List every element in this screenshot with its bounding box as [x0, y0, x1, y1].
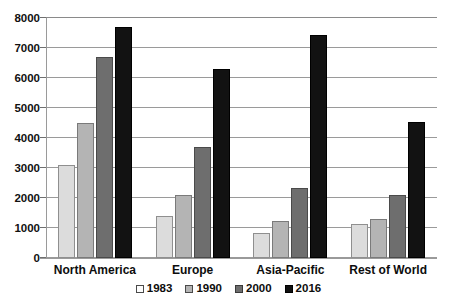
legend-swatch-icon	[185, 285, 193, 293]
bar[interactable]	[156, 216, 173, 258]
bar[interactable]	[272, 221, 289, 259]
bar[interactable]	[213, 69, 230, 258]
bar[interactable]	[175, 195, 192, 258]
bar[interactable]	[310, 35, 327, 259]
bar[interactable]	[389, 195, 406, 258]
legend-swatch-icon	[136, 285, 144, 293]
bars-layer	[46, 18, 437, 258]
y-axis-tick-marks	[0, 18, 46, 258]
plot-area	[46, 18, 437, 258]
bar[interactable]	[408, 122, 425, 259]
bar[interactable]	[115, 27, 132, 258]
legend-item-1990[interactable]: 1990	[185, 283, 222, 295]
y-axis-line	[46, 18, 47, 259]
legend-swatch-icon	[285, 285, 293, 293]
legend-label: 2016	[296, 283, 322, 295]
legend-label: 1983	[147, 283, 173, 295]
bar[interactable]	[253, 233, 270, 259]
legend-swatch-icon	[235, 285, 243, 293]
bar-group	[46, 18, 144, 258]
x-axis-line	[40, 258, 437, 259]
legend-label: 2000	[246, 283, 272, 295]
bar-chart: 800070006000500040003000200010000 North …	[0, 0, 457, 305]
legend-item-2000[interactable]: 2000	[235, 283, 272, 295]
bar[interactable]	[96, 57, 113, 258]
x-axis-label-2: Asia-Pacific	[256, 263, 324, 277]
bar[interactable]	[77, 123, 94, 258]
x-axis-label-1: Europe	[172, 263, 213, 277]
bar[interactable]	[351, 224, 368, 259]
x-axis-label-3: Rest of World	[349, 263, 427, 277]
x-axis-label-0: North America	[54, 263, 136, 277]
bar[interactable]	[58, 165, 75, 258]
bar-group	[242, 18, 340, 258]
legend-label: 1990	[196, 283, 222, 295]
x-axis-category-labels: North AmericaEuropeAsia-PacificRest of W…	[46, 263, 437, 281]
bar[interactable]	[194, 147, 211, 258]
chart-legend: 1983199020002016	[0, 283, 457, 295]
bar-group	[339, 18, 437, 258]
legend-item-1983[interactable]: 1983	[136, 283, 173, 295]
bar[interactable]	[370, 219, 387, 258]
bar[interactable]	[291, 188, 308, 259]
bar-group	[144, 18, 242, 258]
legend-item-2016[interactable]: 2016	[285, 283, 322, 295]
